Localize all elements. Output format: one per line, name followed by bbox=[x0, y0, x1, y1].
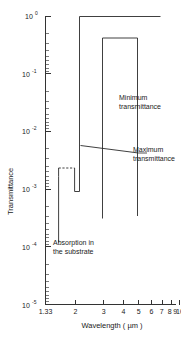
y-tick-label-2: 10 bbox=[22, 128, 30, 135]
annotation-maximum-line2: transmittance bbox=[133, 155, 175, 162]
x-tick-label-7: 7 bbox=[160, 308, 164, 315]
y-tick-label-5: 10 bbox=[22, 302, 30, 309]
y-tick-exp-0: 0 bbox=[35, 10, 38, 16]
x-axis-title: Wavelength ( µm ) bbox=[81, 321, 143, 330]
x-tick-label-6: 6 bbox=[149, 308, 153, 315]
x-tick-label-2: 2 bbox=[74, 308, 78, 315]
transmittance-log-plot: 10 0 10 -1 10 -2 10 -3 10 -4 10 -5 1.33 … bbox=[0, 0, 181, 344]
x-tick-label-5: 5 bbox=[137, 308, 141, 315]
y-axis-title: Transmittance bbox=[6, 168, 15, 215]
annotation-maximum-line1: Maximum bbox=[133, 146, 164, 153]
minimum-transmittance-curve bbox=[103, 38, 138, 219]
x-tick-label-8: 8 bbox=[168, 308, 172, 315]
y-tick-label-0: 10 bbox=[25, 13, 33, 20]
annotation-maximum-transmittance: Maximum transmittance bbox=[133, 146, 175, 162]
annotation-minimum-transmittance: Minimum transmittance bbox=[119, 94, 161, 110]
y-tick-label-4: 10 bbox=[22, 244, 30, 251]
maximum-transmittance-curve bbox=[59, 17, 161, 243]
x-tick-label-10: 10 bbox=[176, 308, 181, 315]
y-tick-label-3: 10 bbox=[22, 186, 30, 193]
figure-container: 10 0 10 -1 10 -2 10 -3 10 -4 10 -5 1.33 … bbox=[0, 0, 181, 344]
annotation-absorption-substrate: Absorption in the substrate bbox=[53, 239, 94, 255]
x-tick-label-1-33: 1.33 bbox=[39, 308, 53, 315]
x-tick-labels: 1.33 2 3 4 5 6 7 8 9 10 bbox=[39, 308, 181, 315]
max-transmittance-slope bbox=[81, 146, 139, 154]
annotation-absorption-line2: the substrate bbox=[53, 248, 94, 255]
annotation-minimum-line1: Minimum bbox=[119, 94, 148, 101]
y-tick-labels: 10 0 10 -1 10 -2 10 -3 10 -4 10 -5 bbox=[22, 10, 38, 309]
y-tick-exp-2: -2 bbox=[32, 125, 37, 131]
y-tick-exp-4: -4 bbox=[32, 241, 37, 247]
annotation-minimum-line2: transmittance bbox=[119, 103, 161, 110]
y-major-ticks bbox=[46, 16, 51, 305]
y-tick-exp-3: -3 bbox=[32, 183, 37, 189]
x-ticks bbox=[46, 300, 180, 305]
y-tick-exp-1: -1 bbox=[32, 68, 37, 74]
x-tick-label-4: 4 bbox=[121, 308, 125, 315]
y-tick-label-1: 10 bbox=[22, 71, 30, 78]
y-tick-exp-5: -5 bbox=[32, 299, 37, 305]
annotation-absorption-line1: Absorption in bbox=[53, 239, 94, 247]
x-tick-label-3: 3 bbox=[102, 308, 106, 315]
